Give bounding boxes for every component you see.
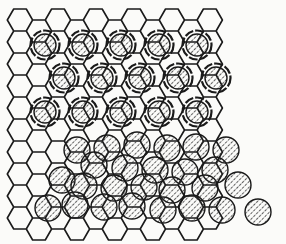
adsorbate-atom xyxy=(129,67,151,89)
adsorbate-atom xyxy=(119,193,145,219)
adsorbate-atom xyxy=(34,101,56,123)
adsorbate-atom xyxy=(72,34,94,56)
adsorbate-atom xyxy=(35,195,61,221)
adsorbate-atom xyxy=(53,67,75,89)
adsorbate-atom xyxy=(148,34,170,56)
ordered-adsorbate-layer xyxy=(31,31,231,127)
lattice-diagram xyxy=(0,0,286,244)
adsorbate-atom xyxy=(150,197,176,223)
adsorbate-atom xyxy=(110,34,132,56)
adsorbate-atom xyxy=(91,67,113,89)
adsorbate-atom xyxy=(167,67,189,89)
adsorbate-atom xyxy=(110,101,132,123)
adsorbate-atom xyxy=(186,34,208,56)
adsorbate-atom xyxy=(186,101,208,123)
lattice-svg xyxy=(0,0,286,244)
adsorbate-atom xyxy=(245,199,271,225)
adsorbate-atom xyxy=(91,194,117,220)
adsorbate-atom xyxy=(62,192,88,218)
adsorbate-atom xyxy=(34,34,56,56)
adsorbate-atom xyxy=(225,172,251,198)
adsorbate-atom xyxy=(72,101,94,123)
adsorbate-atom xyxy=(205,67,227,89)
adsorbate-atom xyxy=(148,101,170,123)
disordered-adsorbate-cluster xyxy=(35,132,271,225)
adsorbate-atom xyxy=(179,195,205,221)
adsorbate-atom xyxy=(183,134,209,160)
adsorbate-atom xyxy=(124,132,150,158)
adsorbate-atom xyxy=(209,197,235,223)
